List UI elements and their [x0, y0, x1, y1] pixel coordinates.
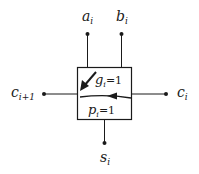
label-propagate: pi=1	[88, 102, 115, 119]
label-a: ai	[82, 8, 93, 26]
adder-cell-diagram: ai bi ci+1 ci si gi=1 pi=1	[0, 0, 199, 174]
carry-in-terminal: ci	[132, 84, 188, 102]
carry-out-terminal: ci+1	[11, 84, 78, 102]
terminal-dot-icon	[86, 32, 90, 36]
label-sum: si	[100, 149, 110, 167]
terminal-dot-icon	[42, 92, 46, 96]
label-carry-in: ci	[177, 84, 188, 102]
terminal-dot-icon	[103, 141, 107, 145]
input-a-terminal: ai	[82, 8, 93, 68]
label-b: bi	[116, 8, 128, 26]
terminal-dot-icon	[164, 92, 168, 96]
label-generate: gi=1	[95, 72, 122, 89]
terminal-dot-icon	[120, 32, 124, 36]
label-carry-out: ci+1	[11, 84, 35, 102]
input-b-terminal: bi	[116, 8, 128, 68]
sum-terminal: si	[100, 120, 110, 168]
